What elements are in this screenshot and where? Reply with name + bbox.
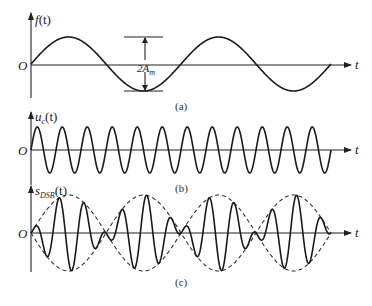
panel-a: f(t) O t 2Am (a) (18, 12, 359, 113)
xlabel-c: t (355, 225, 359, 240)
caption-a: (a) (175, 100, 188, 113)
origin-label-c: O (18, 226, 28, 241)
amplitude-label: 2Am (137, 62, 155, 77)
panel-c: sDSB(t) O t (c) (18, 183, 359, 289)
origin-label-b: O (18, 143, 28, 158)
origin-label-a: O (18, 58, 28, 73)
xlabel-b: t (355, 142, 359, 157)
xlabel-a: t (355, 57, 359, 72)
modulating-signal-curve (31, 37, 331, 91)
dsb-modulation-diagram: f(t) O t 2Am (a) uc(t) O t (b) sDSB(t) O… (0, 0, 372, 306)
ylabel-c: sDSB(t) (35, 183, 67, 200)
panel-b: uc(t) O t (b) (18, 109, 359, 195)
ylabel-a: f(t) (35, 12, 51, 27)
caption-b: (b) (175, 182, 188, 195)
caption-c: (c) (175, 276, 188, 289)
ylabel-b: uc(t) (35, 109, 57, 126)
